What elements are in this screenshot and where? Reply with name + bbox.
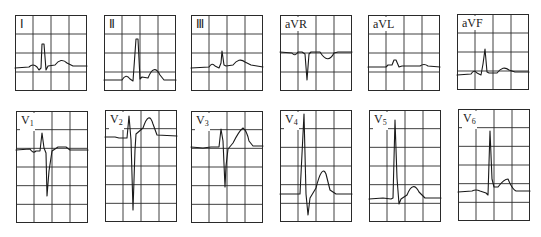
ecg-panel-v6: V6 <box>458 109 530 221</box>
lead-label: V4 <box>284 112 299 130</box>
ecg-panel-iii: Ⅲ <box>191 15 263 91</box>
lead-label: Ⅱ <box>108 17 116 31</box>
ecg-panel-v2: V2 <box>105 110 177 222</box>
lead-label: V2 <box>109 112 124 130</box>
ecg-panel-avl: aVL <box>368 15 440 91</box>
ecg-panel-v3: V3 <box>191 111 263 223</box>
ecg-panel-avf: aVF <box>457 14 529 90</box>
ecg-panel-v1: V1 <box>16 111 88 223</box>
lead-label: Ⅲ <box>195 17 205 31</box>
lead-label: V3 <box>195 113 210 131</box>
lead-label: aVF <box>461 16 484 30</box>
ecg-panel-v4: V4 <box>280 110 352 222</box>
lead-label: Ⅰ <box>19 17 25 31</box>
ecg-grid <box>15 15 87 91</box>
lead-label: aVR <box>284 17 308 31</box>
ecg-panel-avr: aVR <box>280 15 352 91</box>
lead-label: V5 <box>373 112 388 130</box>
ecg-panel-i: Ⅰ <box>15 15 87 91</box>
ecg-panel-v5: V5 <box>369 110 441 222</box>
ecg-panel-ii: Ⅱ <box>104 15 176 91</box>
lead-label: V1 <box>20 113 35 131</box>
lead-label: V6 <box>462 111 477 129</box>
lead-label: aVL <box>372 17 395 31</box>
